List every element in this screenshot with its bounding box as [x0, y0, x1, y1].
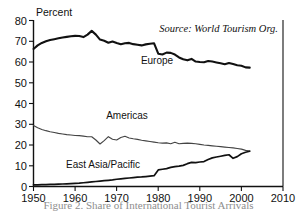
y-tick-label-80: 80 — [15, 15, 27, 27]
y-tick-label-50: 50 — [15, 77, 27, 89]
y-tick-label-0: 0 — [21, 181, 27, 193]
series-line-americas — [34, 126, 250, 152]
series-label-americas: Americas — [106, 110, 148, 121]
series-label-europe: Europe — [141, 55, 174, 66]
y-tick-label-40: 40 — [15, 98, 27, 110]
y-tick-label-70: 70 — [15, 35, 27, 47]
y-axis-title: Percent — [36, 6, 72, 18]
chart-figure: Percent 80 70 60 50 40 30 20 10 0 — [0, 0, 297, 211]
figure-caption-text: Figure 2. Share of International Tourist… — [0, 201, 297, 211]
y-tick-label-60: 60 — [15, 56, 27, 68]
series-label-east-asia-pacific: East Asia/Pacific — [66, 159, 140, 170]
y-tick-label-30: 30 — [15, 118, 27, 130]
y-tick-label-10: 10 — [15, 160, 27, 172]
y-tick-label-20: 20 — [15, 139, 27, 151]
source-annotation: Source: World Tourism Org. — [159, 23, 278, 34]
line-chart-svg: Percent 80 70 60 50 40 30 20 10 0 — [0, 0, 297, 211]
figure-caption-clipped: Figure 2. Share of International Tourist… — [0, 201, 297, 211]
